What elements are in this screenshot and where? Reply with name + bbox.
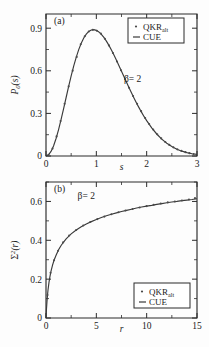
data-point	[56, 135, 58, 137]
x-tick-label: 0	[44, 159, 49, 169]
x-tick-label: 15	[192, 321, 202, 331]
data-point	[47, 154, 49, 156]
legend-label-qkr-sub: alt	[168, 291, 174, 298]
data-point	[104, 38, 106, 40]
data-point	[96, 30, 98, 32]
data-point	[124, 210, 126, 212]
y-tick-label: 0	[37, 313, 42, 323]
data-point	[68, 85, 70, 87]
data-point	[172, 146, 174, 148]
y-tick-label: 0.6	[30, 66, 42, 76]
data-point	[116, 60, 118, 62]
data-point	[49, 272, 51, 274]
x-axis-title: r	[120, 324, 124, 334]
data-point	[60, 120, 62, 122]
data-point	[120, 69, 122, 71]
x-tick-label: 1	[94, 159, 99, 169]
data-point	[132, 208, 134, 210]
y-tick-label: 0.3	[30, 109, 42, 119]
data-point	[136, 103, 138, 105]
x-tick-label: 2	[144, 159, 149, 169]
y-tick-label: 0.9	[30, 24, 42, 34]
data-point	[192, 153, 194, 155]
panel-a: 012300.30.60.9sP0(s)(a)β= 2QKRaltCUE	[0, 0, 209, 174]
data-point	[80, 43, 82, 45]
data-point	[144, 117, 146, 119]
panel-label: (b)	[54, 184, 65, 195]
y-tick-label: 0.2	[30, 275, 42, 285]
legend-label-cue: CUE	[149, 297, 168, 307]
data-point	[184, 151, 186, 153]
data-point	[146, 205, 148, 207]
data-point	[88, 30, 90, 32]
data-point	[152, 128, 154, 130]
panel-label: (a)	[54, 16, 65, 27]
y-title-arg: (r)	[10, 241, 21, 251]
data-point	[132, 95, 134, 97]
data-point	[96, 218, 98, 220]
data-point	[112, 52, 114, 54]
y-title-arg: (s)	[10, 75, 21, 85]
data-point	[76, 56, 78, 58]
x-tick-label: 10	[142, 321, 152, 331]
data-point	[176, 148, 178, 150]
data-point	[72, 70, 74, 72]
x-tick-label: 3	[195, 159, 200, 169]
y-axis-title-text: P0(s)	[10, 75, 21, 95]
y-tick-label: 0.4	[30, 236, 42, 246]
x-axis-title: s	[120, 162, 124, 172]
panel-b-plot: 05101500.20.40.6rΣ2(r)(b)β= 2QKRaltCUE	[0, 173, 209, 347]
data-point	[82, 224, 84, 226]
data-point	[89, 221, 91, 223]
legend-label-qkr-main: QKR	[143, 22, 162, 32]
y-tick-label: 0	[37, 151, 42, 161]
x-tick-label: 5	[94, 321, 99, 331]
legend-label-cue: CUE	[143, 32, 162, 42]
data-point	[117, 211, 119, 213]
y-axis-title-text: Σ2(r)	[9, 241, 21, 260]
data-point	[148, 123, 150, 125]
data-point	[194, 197, 196, 199]
data-point	[128, 87, 130, 89]
data-point	[108, 44, 110, 46]
data-point	[167, 201, 169, 203]
data-point	[53, 259, 55, 261]
legend-label-qkr-sub: alt	[162, 26, 168, 33]
data-point	[156, 133, 158, 135]
legend-marker-dot	[141, 290, 143, 292]
data-point	[188, 198, 190, 200]
data-point	[110, 213, 112, 215]
figure-container: 012300.30.60.9sP0(s)(a)β= 2QKRaltCUE 051…	[0, 0, 209, 347]
data-point	[84, 35, 86, 37]
legend-marker-dot	[135, 25, 137, 27]
y-tick-label: 0.6	[30, 197, 42, 207]
y-axis-title: Σ2(r)	[9, 241, 21, 260]
data-point	[92, 29, 94, 31]
data-point	[174, 200, 176, 202]
panel-b: 05101500.20.40.6rΣ2(r)(b)β= 2QKRaltCUE	[0, 173, 209, 347]
data-point	[68, 234, 70, 236]
data-point	[103, 216, 105, 218]
data-point	[188, 152, 190, 154]
data-point	[160, 203, 162, 205]
legend-label-qkr-main: QKR	[149, 287, 168, 297]
data-point	[180, 150, 182, 152]
beta-annotation: β= 2	[78, 191, 96, 201]
x-tick-label: 0	[44, 321, 49, 331]
data-point	[75, 229, 77, 231]
data-point	[64, 103, 66, 105]
panel-a-plot: 012300.30.60.9sP0(s)(a)β= 2QKRaltCUE	[0, 0, 209, 174]
data-point	[62, 241, 64, 243]
data-point	[57, 250, 59, 252]
data-point	[181, 199, 183, 201]
data-point	[46, 294, 48, 296]
data-point	[164, 141, 166, 143]
data-point	[168, 144, 170, 146]
y-axis-title: P0(s)	[10, 75, 21, 95]
data-point	[51, 148, 53, 150]
data-point	[139, 206, 141, 208]
beta-annotation: β= 2	[124, 74, 142, 84]
data-point	[140, 110, 142, 112]
data-point	[100, 33, 102, 35]
data-point	[153, 204, 155, 206]
